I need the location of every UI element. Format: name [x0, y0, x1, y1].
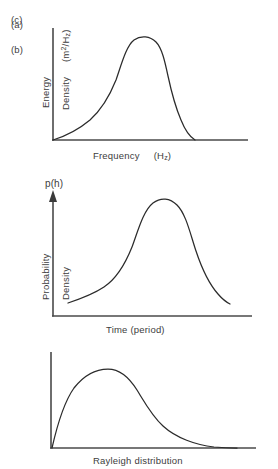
panel-a-units-superscript: 2: [60, 46, 67, 50]
panel-a-units-subscript: z: [64, 33, 71, 37]
panel-a-y-axis-label-inner: Density: [60, 77, 71, 110]
panel-a-units-mid: /H: [60, 37, 71, 47]
figure-running-title: WAVE STATISTICS: [0, 0, 278, 2]
panel-b-x-axis-label: Time (period): [106, 324, 165, 335]
panel-label-b: (b): [11, 44, 23, 55]
panel-a-x-axis-label: Frequency(Hz): [93, 150, 171, 161]
panel-a-units-close: ): [60, 29, 71, 32]
panel-a-x-axis-label-main: Frequency: [93, 150, 140, 161]
panel-b-y-axis-arrowhead: [49, 190, 57, 202]
panel-a-units-open: (m: [60, 51, 71, 62]
panel-a-x-axis-unit-close: ): [168, 150, 171, 161]
panel-b-y-axis-label-inner: Density: [60, 267, 71, 300]
panel-a-y-axis-label-outer: Energy: [40, 77, 51, 108]
panel-c-x-axis-label: Rayleigh distribution: [93, 455, 183, 466]
panel-c: [0, 340, 278, 469]
panel-a-curve: [53, 37, 195, 140]
panel-b-y-axis-label-outer: Probability: [40, 253, 51, 300]
panel-c-plot: [0, 340, 278, 469]
panel-b-y-axis-top-label: p(h): [45, 178, 63, 189]
panel-c-curve: [52, 369, 237, 448]
panel-b-curve: [68, 199, 230, 304]
panel-label-c: (c): [11, 14, 23, 25]
panel-a-y-axis-units: (m2/Hz): [60, 29, 71, 62]
panel-a-x-axis-unit-open: (H: [154, 150, 164, 161]
